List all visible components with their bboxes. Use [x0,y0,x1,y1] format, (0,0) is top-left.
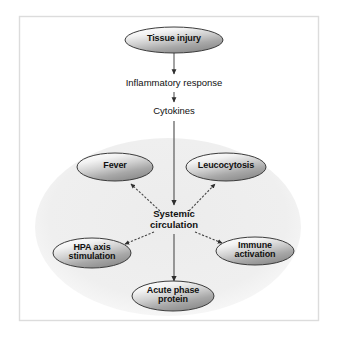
node-immune[interactable] [216,237,294,265]
node-leucocytosis[interactable] [186,153,266,181]
node-hpa-axis[interactable] [53,238,131,268]
diagram-canvas [0,0,337,337]
diagram-figure: Tissue injury Inflammatory response Cyto… [0,0,337,337]
node-tissue-injury[interactable] [125,27,223,53]
node-fever[interactable] [77,153,153,181]
node-acute-phase[interactable] [132,281,214,311]
